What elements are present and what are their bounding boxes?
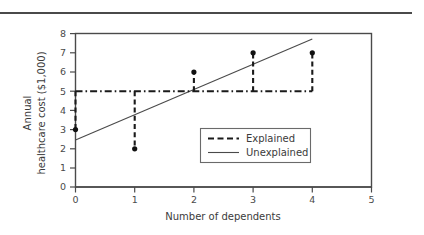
x-tick-label: 1	[132, 194, 138, 205]
x-axis-ticks	[76, 187, 372, 193]
y-tick-label: 7	[60, 47, 66, 58]
y-tick-label: 2	[60, 143, 66, 154]
y-tick-label: 1	[60, 162, 66, 173]
y-tick-label: 8	[60, 28, 66, 39]
y-tick-label: 3	[60, 124, 66, 135]
x-tick-label: 3	[250, 194, 256, 205]
chart-plot: 8 7 6 5 4 3 2 1 0 0 1 2 3 4 5	[0, 0, 424, 235]
y-tick-label: 0	[60, 181, 66, 192]
x-tick-label: 5	[368, 194, 374, 205]
y-tick-label: 4	[60, 105, 66, 116]
data-point	[191, 69, 196, 74]
data-point	[132, 146, 137, 151]
plot-frame	[76, 34, 372, 188]
legend-label-unexplained: Unexplained	[246, 147, 308, 158]
x-tick-label: 2	[191, 194, 197, 205]
figure-container: 8 7 6 5 4 3 2 1 0 0 1 2 3 4 5	[0, 0, 424, 235]
x-axis-tick-labels: 0 1 2 3 4 5	[72, 194, 374, 205]
data-point	[310, 50, 315, 55]
x-tick-label: 0	[72, 194, 78, 205]
legend-label-explained: Explained	[246, 133, 295, 144]
x-tick-label: 4	[309, 194, 315, 205]
y-axis-title-line1: Annual	[22, 96, 33, 131]
y-axis-title-line2: healthcare cost ($1,000)	[36, 51, 47, 174]
y-axis-tick-labels: 8 7 6 5 4 3 2 1 0	[60, 28, 66, 192]
y-tick-label: 5	[60, 86, 66, 97]
data-point	[73, 127, 78, 132]
y-tick-label: 6	[60, 66, 66, 77]
legend: Explained Unexplained	[201, 129, 311, 163]
data-point	[251, 50, 256, 55]
x-axis-title: Number of dependents	[165, 211, 280, 222]
